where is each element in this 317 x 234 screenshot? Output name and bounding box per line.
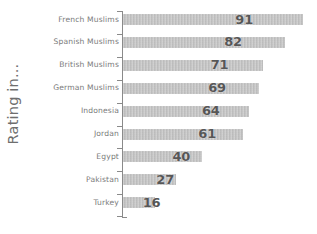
bar xyxy=(123,129,243,140)
bar-value-label: 61 xyxy=(198,126,216,141)
bar xyxy=(123,151,202,162)
bar xyxy=(123,14,303,25)
bar-chart: Rating in... French Muslims91Spanish Mus… xyxy=(0,0,317,234)
category-label: Spanish Muslims xyxy=(19,37,119,46)
y-axis-foot xyxy=(122,217,127,218)
y-axis-tick xyxy=(117,80,122,81)
category-label: British Muslims xyxy=(19,60,119,69)
bar-value-label: 40 xyxy=(172,149,190,164)
bar-value-label: 16 xyxy=(143,195,161,210)
bar xyxy=(123,37,285,48)
y-axis-tick xyxy=(117,126,122,127)
y-axis-tick xyxy=(117,11,122,12)
category-label: Turkey xyxy=(19,198,119,207)
y-axis-tick xyxy=(117,194,122,195)
bar-value-label: 64 xyxy=(202,103,220,118)
category-label: Jordan xyxy=(19,129,119,138)
y-axis-tick xyxy=(117,57,122,58)
category-label: Egypt xyxy=(19,152,119,161)
bar-value-label: 71 xyxy=(211,57,229,72)
y-axis-tick xyxy=(117,34,122,35)
bar xyxy=(123,60,263,71)
y-axis-tick xyxy=(117,216,122,217)
bar-value-label: 91 xyxy=(235,12,253,27)
bar-value-label: 69 xyxy=(208,80,226,95)
category-label: Indonesia xyxy=(19,106,119,115)
bar xyxy=(123,106,249,117)
bar-value-label: 82 xyxy=(224,34,242,49)
y-axis-tick xyxy=(117,103,122,104)
bar xyxy=(123,83,259,94)
bar-value-label: 27 xyxy=(156,172,174,187)
category-label: German Muslims xyxy=(19,83,119,92)
category-label: French Muslims xyxy=(19,15,119,24)
y-axis-tick xyxy=(117,148,122,149)
category-label: Pakistan xyxy=(19,175,119,184)
plot-area: French Muslims91Spanish Muslims82British… xyxy=(0,0,317,234)
y-axis-tick xyxy=(117,171,122,172)
